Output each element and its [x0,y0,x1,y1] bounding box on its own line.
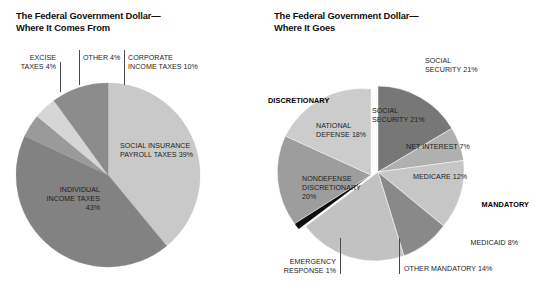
group-label-mandatory: MANDATORY [445,200,529,209]
callout-corporate-income-taxes: CORPORATE INCOME TAXES 10% [128,54,218,72]
callout-social-security: SOCIAL SECURITY 21% [425,57,495,75]
slice-label-nondefense-discretionary: NONDEFENSE DISCRETIONARY 20% [302,175,374,202]
slice-label-emergency-response: EMERGENCY RESPONSE 1% [268,258,336,276]
slice-label-national-defense: NATIONAL DEFENSE 18% [316,122,388,140]
slice-label-individual-income-taxes: INDIVIDUAL INCOME TAXES 43% [28,186,100,213]
slice-label-net-interest: NET INTEREST 7% [406,143,498,152]
slice-label-social-insurance-payroll-taxes: SOCIAL INSURANCE PAYROLL TAXES 39% [120,142,220,160]
leader-line-corporate [124,50,125,85]
slice-label-other-mandatory: OTHER MANDATORY 14% [404,265,514,274]
callout-excise-taxes: EXCISE TAXES 4% [0,54,56,72]
slice-label-medicaid: MEDICAID 8% [428,239,518,248]
chart-panel-where-it-comes-from: The Federal Government Dollar— Where It … [0,0,268,294]
chart-panel-where-it-goes: The Federal Government Dollar— Where It … [268,0,535,294]
leader-line-emergency-response [340,238,341,274]
slice-label-medicare: MEDICARE 12% [413,173,493,182]
leader-line-other-mandatory [399,238,400,274]
leader-line-other [79,50,80,85]
callout-other: OTHER 4% [83,54,123,63]
leader-line-excise [60,62,61,92]
group-label-discretionary: DISCRETIONARY [268,96,342,105]
